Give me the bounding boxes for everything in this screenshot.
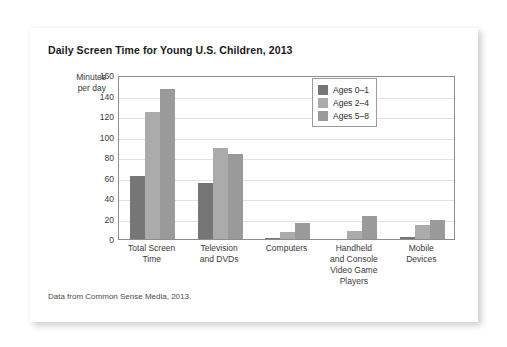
legend-item: Ages 5–8 [318, 109, 369, 122]
legend: Ages 0–1Ages 2–4Ages 5–8 [312, 78, 377, 127]
y-axis-tick-label: 60 [88, 174, 114, 184]
legend-swatch [318, 98, 328, 108]
legend-item: Ages 2–4 [318, 96, 369, 109]
y-axis-tick-label: 120 [88, 112, 114, 122]
legend-swatch [318, 85, 328, 95]
bar [265, 238, 280, 239]
x-axis-tick-label-line: Mobile [375, 243, 468, 254]
y-axis-tick-label: 100 [88, 133, 114, 143]
bar [295, 223, 310, 239]
x-axis-tick-label-line: Video Game [307, 265, 400, 276]
y-axis-tick-labels: 020406080100120140160 [82, 76, 114, 240]
bar [430, 220, 445, 239]
y-axis-tick-label: 140 [88, 92, 114, 102]
x-axis-tick-label-line: Players [307, 276, 400, 287]
plot-area [118, 76, 455, 240]
y-axis-tick-label: 80 [88, 153, 114, 163]
y-axis-tick-label: 40 [88, 194, 114, 204]
bar [145, 112, 160, 239]
bar [130, 176, 145, 239]
chart-card: Daily Screen Time for Young U.S. Childre… [30, 28, 478, 322]
bar [228, 154, 243, 239]
bar [362, 216, 377, 239]
x-axis-tick-labels: Total ScreenTimeTelevisionand DVDsComput… [118, 243, 455, 313]
bar [347, 231, 362, 239]
page-title: Daily Screen Time for Young U.S. Childre… [48, 44, 293, 56]
legend-label: Ages 5–8 [333, 111, 369, 121]
legend-label: Ages 2–4 [333, 98, 369, 108]
bar-groups [119, 77, 454, 239]
bar [415, 225, 430, 239]
x-axis-tick-label-line: Devices [375, 254, 468, 265]
bar [213, 148, 228, 239]
x-axis-tick-label-line: and DVDs [172, 254, 265, 265]
bar [160, 89, 175, 239]
y-axis-tick-label: 160 [88, 71, 114, 81]
legend-label: Ages 0–1 [333, 85, 369, 95]
bar-group [389, 77, 456, 239]
source-note: Data from Common Sense Media, 2013. [48, 292, 191, 301]
legend-item: Ages 0–1 [318, 83, 369, 96]
y-axis-tick-label: 20 [88, 215, 114, 225]
bar-group [119, 77, 186, 239]
x-axis-tick-label: MobileDevices [375, 243, 468, 265]
bar [400, 237, 415, 239]
bar [280, 232, 295, 239]
legend-swatch [318, 111, 328, 121]
bar-group [186, 77, 253, 239]
bar [198, 183, 213, 239]
